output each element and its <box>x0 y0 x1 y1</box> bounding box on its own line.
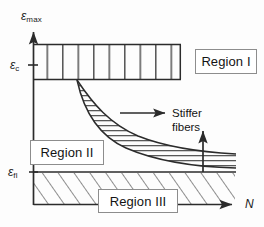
epsilon-max-subscript: max <box>26 15 42 24</box>
region-2-label-box: Region II <box>30 140 104 165</box>
y-axis-label: εmax <box>21 10 42 24</box>
fatigue-life-diagram: εmax εc εfl N Region I Region II Region … <box>0 0 264 227</box>
y-tick-label-epsilon-fl: εfl <box>8 166 18 180</box>
x-axis-label: N <box>245 198 254 210</box>
epsilon-c-subscript: c <box>15 64 19 73</box>
epsilon-fl-subscript: fl <box>13 171 17 180</box>
region-1-hatch-band <box>33 45 181 80</box>
y-tick-label-epsilon-c: εc <box>10 59 19 73</box>
region-1-label-box: Region I <box>195 49 257 74</box>
stiffer-fibers-annotation: Stiffer fibers <box>172 106 202 134</box>
stiffer-fibers-line-1: Stiffer <box>172 106 202 120</box>
region-3-label-box: Region III <box>98 189 178 213</box>
stiffer-fibers-line-2: fibers <box>172 120 202 134</box>
